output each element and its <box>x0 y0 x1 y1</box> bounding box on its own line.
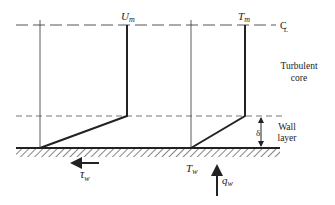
shear-stress-label: τw <box>80 167 90 183</box>
diagram-canvas: Um Tm CL Turbulent core Wall layer δ Tw … <box>0 0 335 205</box>
centerline-label: CL <box>280 20 288 34</box>
heat-flux-label: qw <box>222 174 234 188</box>
wall-temperature-label: Tw <box>186 162 198 176</box>
t-max-label: Tm <box>238 10 250 24</box>
wall-layer-label-line1: Wall <box>278 122 296 132</box>
turbulent-core-label-line1: Turbulent <box>280 61 317 71</box>
temperature-profile <box>191 25 245 148</box>
velocity-profile <box>40 25 127 148</box>
u-max-label: Um <box>121 10 135 24</box>
wall-layer-label-line2: layer <box>278 133 298 143</box>
turbulent-core-label-line2: core <box>291 73 307 83</box>
delta-label: δ <box>256 128 260 138</box>
wall-hatching <box>16 148 280 157</box>
